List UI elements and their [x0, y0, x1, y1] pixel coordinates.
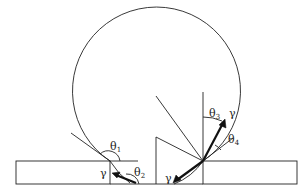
gamma-right-label: γ — [229, 107, 236, 120]
left-tangent-line — [71, 133, 110, 161]
right-substrate — [203, 161, 297, 184]
gamma-left-label: γ — [100, 167, 107, 180]
droplet-contact-angle-diagram: θ1 θ2 θ3 θ4 γ γ γ — [0, 0, 307, 196]
wedge-diagonal — [156, 137, 203, 161]
right-normal-line — [156, 96, 203, 161]
gamma-bottom-arrow — [177, 161, 203, 180]
theta1-label: θ1 — [110, 140, 121, 154]
theta4-label: θ4 — [228, 133, 240, 147]
theta3-label: θ3 — [209, 107, 220, 121]
gamma-left-arrow — [116, 175, 136, 183]
gamma-bottom-label: γ — [165, 172, 172, 185]
theta2-label: θ2 — [134, 166, 145, 180]
left-substrate — [16, 161, 110, 184]
gamma-right-arrow — [203, 125, 222, 161]
